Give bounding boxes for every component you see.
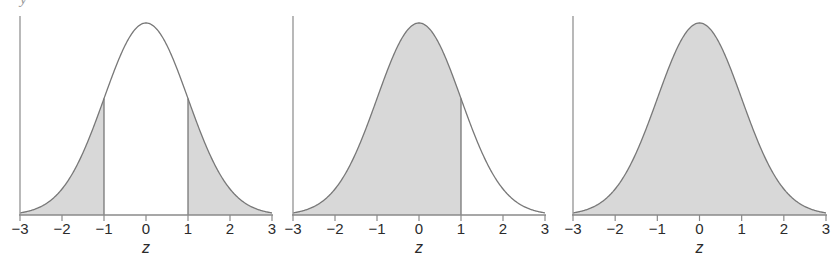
x-axis-tick-label: 0 xyxy=(142,220,150,237)
x-axis-tick-label: −1 xyxy=(368,220,385,237)
x-axis-tick-label: 2 xyxy=(499,220,507,237)
shaded-area-full xyxy=(573,23,826,215)
x-axis-tick-label: −2 xyxy=(607,220,624,237)
x-axis-tick-label: −3 xyxy=(11,220,28,237)
shaded-area-right-tail xyxy=(188,99,272,215)
x-axis-tick-label: −1 xyxy=(95,220,112,237)
x-axis-tick-label: 3 xyxy=(822,220,830,237)
shaded-area-left-tail xyxy=(293,23,461,215)
x-axis-tick-label: 1 xyxy=(184,220,192,237)
x-axis-tick-label-group: −3−2−10123 xyxy=(11,220,276,237)
x-axis-tick-label: −1 xyxy=(649,220,666,237)
chart-svg-two-tailed: −3−2−10123 z xyxy=(0,0,282,260)
x-axis-tick-label: 1 xyxy=(737,220,745,237)
x-axis-tick-label: 0 xyxy=(695,220,703,237)
x-axis-tick-label: 2 xyxy=(226,220,234,237)
normal-distribution-figure: y −3−2−10123 z − xyxy=(0,0,839,260)
x-axis-tick-label: 0 xyxy=(415,220,423,237)
x-axis-tick-label-group: −3−2−10123 xyxy=(564,220,830,237)
x-axis-tick-label: 2 xyxy=(780,220,788,237)
x-axis-tick-label: −2 xyxy=(53,220,70,237)
shaded-area-group xyxy=(573,23,826,215)
x-axis-tick-label: −2 xyxy=(326,220,343,237)
shaded-area-group xyxy=(20,99,272,215)
boundary-line-group xyxy=(104,99,188,215)
x-axis-tick-label: 3 xyxy=(541,220,549,237)
shaded-area-group xyxy=(293,23,461,215)
shaded-area-left-tail xyxy=(20,99,104,215)
chart-panel-left-tail: −3−2−10123 z xyxy=(279,0,561,260)
chart-svg-left-tail: −3−2−10123 z xyxy=(279,0,561,260)
chart-panel-two-tailed: −3−2−10123 z xyxy=(0,0,282,260)
chart-panel-full-area: −3−2−10123 z xyxy=(559,0,839,260)
x-axis-tick-label: 3 xyxy=(268,220,276,237)
x-axis-title: z xyxy=(695,239,704,256)
x-axis-tick-label: 1 xyxy=(457,220,465,237)
x-axis-tick-label: −3 xyxy=(564,220,581,237)
normal-curve xyxy=(20,23,272,213)
x-axis-tick-label-group: −3−2−10123 xyxy=(284,220,549,237)
x-axis-title: z xyxy=(414,239,423,256)
chart-svg-full-area: −3−2−10123 z xyxy=(559,0,839,260)
x-axis-title: z xyxy=(141,239,150,256)
x-axis-tick-label: −3 xyxy=(284,220,301,237)
